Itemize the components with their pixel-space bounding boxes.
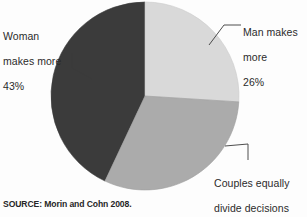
slice-label-couples-line1: Couples equally (214, 177, 307, 189)
slice-label-couples-line2: divide decisions (214, 202, 307, 214)
leader-line-couples-equally-divide (225, 144, 248, 160)
slice-label-man-value: 26% (243, 76, 307, 88)
slice-label-man-makes-more: Man makes more 26% (243, 14, 307, 101)
slice-label-man-line1: Man makes (243, 26, 307, 38)
slice-label-woman-line1: Woman (3, 30, 77, 42)
slice-label-couples-equally-divide: Couples equally divide decisions 31% (214, 165, 307, 217)
slice-label-woman-line2: makes more (3, 55, 77, 67)
pie-chart-figure: Woman makes more 43% Man makes more 26% … (0, 0, 307, 217)
pie-slice-man-makes-more[interactable] (145, 2, 239, 102)
source-note: SOURCE: Morin and Cohn 2008. (3, 199, 132, 209)
slice-label-woman-makes-more: Woman makes more 43% (3, 18, 77, 105)
slice-label-woman-value: 43% (3, 80, 77, 92)
slice-label-man-line2: more (243, 51, 307, 63)
